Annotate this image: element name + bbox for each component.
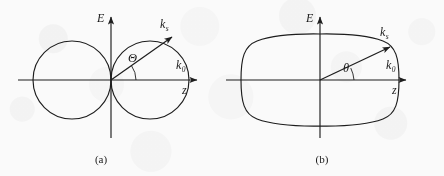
panel-b-axis-label-E: E [305,11,314,25]
panel-a-axis-label-z: z [181,83,187,97]
panel-b-ray-ks [320,47,390,80]
panel-a-angle-arc [132,66,137,80]
figure-root: E k0 z ks Θ (a) E [0,0,444,176]
panel-b-ks-subscript: s [386,32,389,41]
panel-a-k0-subscript: 0 [182,65,186,74]
panel-b-angle-arc [351,68,354,80]
panel-a-axis-label-E: E [96,11,105,25]
panel-b-axis-label-z: z [391,83,397,97]
panel-b-angle-label: θ [343,61,349,75]
panel-a-caption: (a) [95,153,108,166]
panel-a: E k0 z ks Θ (a) [18,11,197,166]
panel-a-ray-ks [111,37,172,80]
panel-b: E k0 z ks θ (b) [226,11,406,166]
panel-b-k0-subscript: 0 [392,65,396,74]
panel-a-ks-subscript: s [166,24,169,33]
panel-a-angle-label: Θ [128,51,137,65]
panel-a-axis-label-k0: k0 [176,58,186,74]
panel-a-ray-label-ks: ks [160,17,169,33]
panel-b-axis-label-k0: k0 [386,58,396,74]
panel-b-ray-label-ks: ks [380,25,389,41]
panel-b-caption: (b) [316,153,329,166]
diagram-canvas: E k0 z ks Θ (a) E [0,0,444,176]
